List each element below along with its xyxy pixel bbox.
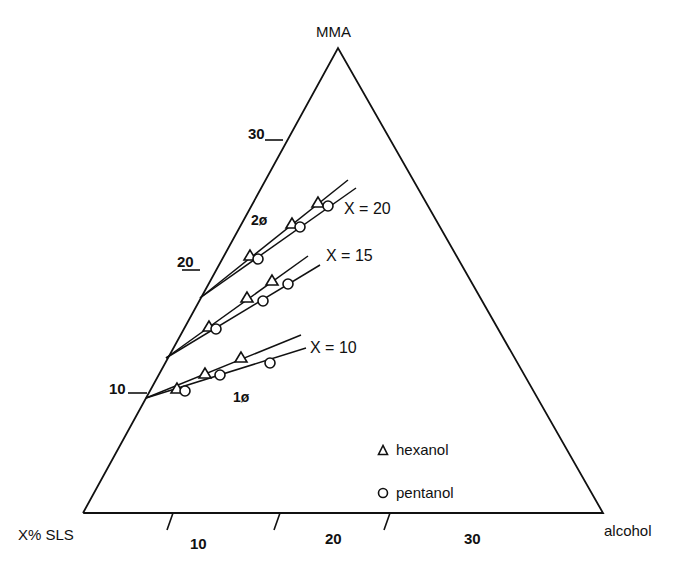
bottom-tick-10: [167, 513, 173, 530]
vertex-label-mma: MMA: [316, 24, 351, 39]
ternary-diagram-canvas: [0, 0, 676, 568]
circle-marker-icon: [377, 487, 389, 499]
legend-item-hexanol: hexanol: [377, 441, 449, 458]
legend-label-pentanol: pentanol: [396, 484, 454, 501]
legend-item-pentanol: pentanol: [377, 484, 454, 501]
one-phase-label: 1ø: [233, 390, 249, 404]
tielines-x20: [200, 180, 356, 298]
legend-label-hexanol: hexanol: [396, 441, 449, 458]
tielines-x10: [146, 335, 306, 398]
triangle-marker-icon: [377, 444, 389, 456]
bottom-tick-label-30: 30: [464, 531, 481, 546]
series-label-x10: X = 10: [310, 340, 357, 356]
bottom-tick-label-10: 10: [190, 536, 207, 551]
series-label-x20: X = 20: [344, 201, 391, 217]
bottom-edge-ticks: [167, 513, 390, 530]
vertex-label-sls: X% SLS: [18, 527, 74, 542]
pentanol-points: [180, 201, 333, 396]
series-label-x15: X = 15: [326, 248, 373, 264]
left-edge-ticks: [128, 140, 283, 393]
triangle-frame: [83, 48, 603, 513]
bottom-tick-20: [274, 513, 280, 530]
tielines-x15: [166, 256, 320, 358]
left-tick-label-20: 20: [177, 254, 194, 269]
bottom-tick-label-20: 20: [325, 531, 342, 546]
left-tick-label-10: 10: [109, 381, 126, 396]
bottom-tick-30: [384, 513, 390, 530]
vertex-label-alcohol: alcohol: [604, 523, 652, 538]
left-tick-label-30: 30: [248, 126, 265, 141]
two-phase-label: 2ø: [251, 213, 267, 227]
